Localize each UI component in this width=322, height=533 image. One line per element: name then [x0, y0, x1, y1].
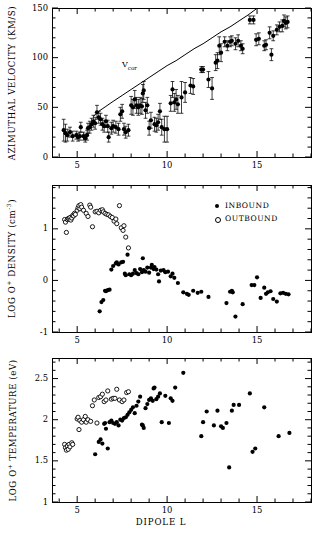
data-point — [156, 272, 160, 276]
data-point — [259, 296, 263, 300]
data-point — [156, 120, 160, 124]
data-point — [89, 419, 93, 423]
data-point — [230, 409, 234, 413]
data-point — [183, 90, 187, 94]
data-point — [104, 427, 108, 431]
data-point — [257, 37, 261, 41]
x-tick-label: 15 — [245, 505, 269, 515]
y-tick-label: 0 — [18, 275, 48, 285]
data-point — [225, 44, 229, 48]
data-point — [169, 101, 173, 105]
data-point — [219, 51, 223, 55]
data-point — [122, 398, 126, 402]
data-point — [160, 420, 164, 424]
data-point — [145, 402, 149, 406]
data-point — [98, 309, 102, 313]
data-point — [114, 217, 118, 221]
data-point — [191, 289, 195, 293]
data-point — [117, 204, 121, 208]
data-point — [100, 441, 104, 445]
data-point — [250, 450, 254, 454]
plot-canvas-azimuthal-velocity — [52, 8, 313, 159]
data-point — [106, 389, 110, 393]
data-point — [106, 446, 110, 450]
data-point — [215, 409, 219, 413]
data-point — [113, 396, 117, 400]
y-tick-label: 1 — [18, 223, 48, 233]
series-outbound — [62, 203, 130, 251]
data-point — [115, 222, 119, 226]
data-point — [138, 395, 142, 399]
data-point — [233, 314, 237, 318]
data-point — [142, 88, 146, 92]
data-point — [251, 18, 255, 22]
legend-label-outbound: OUTBOUND — [225, 214, 278, 223]
data-point — [166, 270, 170, 274]
x-tick-label: 10 — [155, 335, 179, 345]
data-point — [241, 302, 245, 306]
data-point — [126, 390, 130, 394]
data-point — [271, 297, 275, 301]
data-point — [173, 386, 177, 390]
axis-label-y-text-o-plus-temperature: LOG O+ TEMPERATURE (eV) — [7, 359, 18, 501]
data-point — [237, 403, 241, 407]
data-point — [141, 256, 145, 260]
data-point — [134, 404, 138, 408]
data-point — [215, 59, 219, 63]
data-point — [133, 411, 137, 415]
data-point — [253, 446, 257, 450]
data-point — [71, 134, 75, 138]
data-point — [158, 391, 162, 395]
data-point — [90, 404, 94, 408]
data-point — [85, 133, 89, 137]
data-point — [157, 279, 161, 283]
data-point — [205, 409, 209, 413]
data-point — [92, 398, 96, 402]
data-point — [121, 260, 125, 264]
data-point — [170, 87, 174, 91]
data-point — [104, 398, 108, 402]
data-point — [264, 43, 268, 47]
y-tick-label: 2.5 — [18, 373, 48, 383]
data-point — [147, 271, 151, 275]
legend-label-inbound: INBOUND — [225, 201, 269, 210]
data-point — [170, 272, 174, 276]
data-point — [86, 214, 90, 218]
data-point — [107, 288, 111, 292]
y-tick-label: 1 — [18, 497, 48, 507]
x-tick-label: 5 — [65, 505, 89, 515]
axis-label-y-wrap-o-plus-temperature: LOG O+ TEMPERATURE (eV) — [4, 358, 20, 502]
data-point — [93, 121, 97, 125]
data-point — [191, 84, 195, 88]
data-point — [268, 289, 272, 293]
y-tick-label: 150 — [18, 3, 48, 13]
annotation-vcor: Vcor — [122, 60, 137, 71]
data-point — [262, 405, 266, 409]
data-point — [131, 272, 135, 276]
data-point — [116, 423, 120, 427]
y-tick-label: 2 — [18, 414, 48, 424]
data-point — [212, 423, 216, 427]
data-point — [126, 128, 130, 132]
data-point — [179, 95, 183, 99]
data-point — [100, 392, 104, 396]
data-point — [255, 275, 259, 279]
data-point — [271, 34, 275, 38]
data-point — [210, 86, 214, 90]
data-point — [143, 270, 147, 274]
data-point — [149, 118, 153, 122]
data-point — [286, 292, 290, 296]
data-point — [101, 298, 105, 302]
y-tick-label: 50 — [18, 102, 48, 112]
y-tick-label: 100 — [18, 52, 48, 62]
data-point — [115, 387, 119, 391]
data-point — [286, 20, 290, 24]
y-tick-label: 1.5 — [18, 455, 48, 465]
data-point — [165, 127, 169, 131]
data-point — [248, 391, 252, 395]
axis-label-y-text-o-plus-density: LOG O+ DENSITY (cm-3) — [7, 199, 18, 318]
data-point — [151, 399, 155, 403]
x-tick-label: 10 — [155, 505, 179, 515]
data-point — [201, 420, 205, 424]
data-point — [125, 253, 129, 257]
